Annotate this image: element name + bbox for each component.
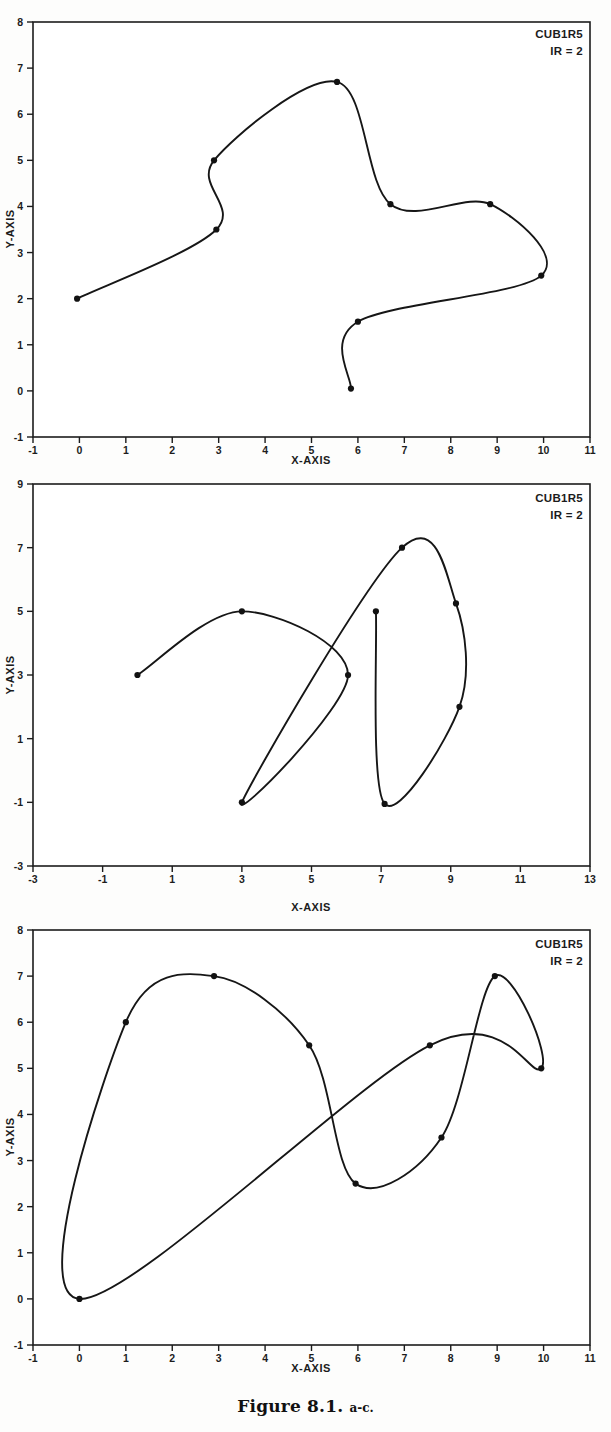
figure-caption-main: Figure 8.1.: [237, 1396, 343, 1416]
y-tick-label: 1: [17, 1247, 23, 1259]
data-point-marker: [427, 1042, 433, 1048]
y-tick-label: 8: [17, 16, 23, 28]
x-tick-label: 6: [355, 1352, 361, 1364]
plot-frame-b: [33, 484, 590, 866]
data-point-marker: [387, 201, 393, 207]
data-point-marker: [538, 273, 544, 279]
data-point-marker: [76, 1296, 82, 1302]
x-tick-label: -1: [98, 873, 107, 885]
y-tick-label: 3: [17, 1155, 23, 1167]
y-tick-label: 0: [17, 1293, 23, 1305]
x-tick-label: 10: [538, 444, 550, 456]
data-point-marker: [399, 545, 405, 551]
data-point-marker: [453, 600, 459, 606]
x-tick-label: -1: [28, 444, 37, 456]
x-tick-label: 4: [262, 1352, 268, 1364]
x-tick-label: 10: [538, 1352, 550, 1364]
x-tick-label: 9: [448, 873, 454, 885]
x-tick-label: 3: [216, 444, 222, 456]
figure-caption: Figure 8.1. a-c.: [0, 1396, 611, 1416]
y-tick-label: 7: [17, 970, 23, 982]
x-tick-label: 11: [584, 1352, 595, 1364]
y-tick-label: 3: [17, 247, 23, 259]
y-tick-label: 2: [17, 1201, 23, 1213]
y-tick-label: 4: [17, 200, 23, 212]
data-point-marker: [239, 608, 245, 614]
y-axis-title-b: Y-AXIS: [4, 655, 16, 694]
y-tick-label: 2: [17, 293, 23, 305]
data-point-marker: [334, 79, 340, 85]
y-tick-label: 4: [17, 1108, 23, 1120]
x-axis-title-c: X-AXIS: [291, 1362, 331, 1374]
data-point-marker: [123, 1019, 129, 1025]
data-point-marker: [348, 385, 354, 391]
data-point-marker: [538, 1065, 544, 1071]
x-tick-label: 3: [239, 873, 245, 885]
annotation-label-line2-c: IR = 2: [550, 955, 583, 967]
figure-caption-sub: a-c.: [350, 1401, 374, 1415]
x-tick-label: 8: [448, 1352, 454, 1364]
data-point-marker: [211, 973, 217, 979]
x-axis-title-b: X-AXIS: [291, 901, 331, 913]
y-tick-label: 5: [17, 154, 23, 166]
y-tick-label: 0: [17, 385, 23, 397]
annotation-label-line1-a: CUB1R5: [535, 28, 583, 40]
x-tick-label: 2: [169, 444, 175, 456]
x-tick-label: 4: [262, 444, 268, 456]
y-tick-label: 1: [17, 339, 23, 351]
x-tick-label: 7: [401, 444, 407, 456]
data-point-marker: [306, 1042, 312, 1048]
data-point-marker: [345, 672, 351, 678]
x-tick-label: 6: [355, 444, 361, 456]
plot-panel-b: -3-1135791113-3-113579 CUB1R5 IR = 2 X-A…: [0, 470, 611, 920]
y-tick-label: 6: [17, 108, 23, 120]
data-point-marker: [487, 201, 493, 207]
x-tick-label: 7: [401, 1352, 407, 1364]
data-point-marker: [456, 704, 462, 710]
y-tick-label: 7: [17, 542, 23, 554]
plot-panel-a: -101234567891011-1012345678 CUB1R5 IR = …: [0, 0, 611, 470]
x-tick-label: 1: [169, 873, 175, 885]
plot-svg-a: -101234567891011-1012345678 CUB1R5 IR = …: [0, 0, 611, 470]
x-tick-label: 7: [378, 873, 384, 885]
data-point-marker: [353, 1181, 359, 1187]
y-tick-label: -1: [14, 1339, 23, 1351]
x-axis-title-a: X-AXIS: [291, 454, 331, 466]
y-axis-title-a: Y-AXIS: [4, 209, 16, 248]
data-point-marker: [492, 973, 498, 979]
x-tick-label: -3: [28, 873, 37, 885]
annotation-label-line2-a: IR = 2: [550, 45, 583, 57]
x-tick-label: 3: [216, 1352, 222, 1364]
x-tick-label: 0: [76, 444, 82, 456]
y-tick-label: 7: [17, 62, 23, 74]
x-tick-label: 11: [584, 444, 595, 456]
data-point-marker: [373, 608, 379, 614]
x-tick-label: 0: [76, 1352, 82, 1364]
x-tick-label: 2: [169, 1352, 175, 1364]
plot-frame-a: [33, 22, 590, 437]
data-point-marker: [211, 157, 217, 163]
figure-page: -101234567891011-1012345678 CUB1R5 IR = …: [0, 0, 611, 1432]
x-tick-label: 1: [123, 1352, 129, 1364]
y-tick-label: -3: [14, 860, 23, 872]
y-tick-label: 3: [17, 669, 23, 681]
x-tick-label: 8: [448, 444, 454, 456]
y-axis-title-c: Y-AXIS: [4, 1117, 16, 1156]
y-tick-label: 1: [17, 733, 23, 745]
y-tick-label: 5: [17, 605, 23, 617]
y-tick-label: 5: [17, 1062, 23, 1074]
y-tick-label: 9: [17, 478, 23, 490]
y-tick-label: -1: [14, 431, 23, 443]
annotation-label-line1-b: CUB1R5: [535, 492, 583, 504]
data-point-marker: [438, 1134, 444, 1140]
data-point-marker: [382, 801, 388, 807]
plot-svg-c: -101234567891011-1012345678 CUB1R5 IR = …: [0, 920, 611, 1390]
x-tick-label: 1: [123, 444, 129, 456]
x-tick-label: 9: [494, 1352, 500, 1364]
data-point-marker: [239, 799, 245, 805]
plot-svg-b: -3-1135791113-3-113579 CUB1R5 IR = 2 X-A…: [0, 470, 611, 920]
data-point-marker: [355, 319, 361, 325]
x-tick-label: 13: [584, 873, 596, 885]
x-tick-label: 9: [494, 444, 500, 456]
y-tick-label: -1: [14, 796, 23, 808]
